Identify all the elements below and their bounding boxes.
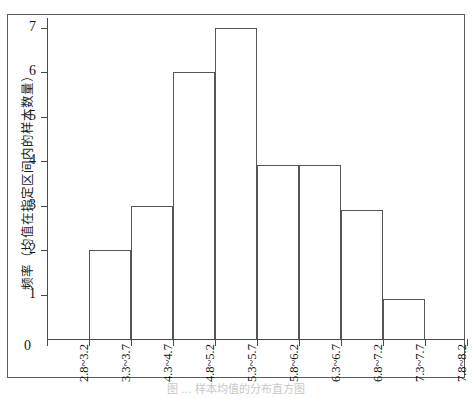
y-axis-tick-label: 3 <box>29 197 36 213</box>
x-axis-line <box>47 339 465 340</box>
histogram-bar <box>131 206 173 340</box>
histogram-bar <box>89 250 131 339</box>
histogram-bar <box>257 165 299 339</box>
origin-zero-label: 0 <box>24 338 31 354</box>
plot-area <box>47 18 467 339</box>
figure-caption: 图 … 样本均值的分布直方图 <box>0 382 472 397</box>
x-axis-tick-mark <box>47 339 48 346</box>
histogram-figure: 频率（均值在指定区间内的样本数量） 1234567 0 2.8~3.23.3~3… <box>0 0 472 399</box>
histogram-bar <box>341 210 383 339</box>
histogram-bar <box>299 165 341 339</box>
y-axis-tick-label: 1 <box>29 286 36 302</box>
histogram-bar <box>215 28 257 340</box>
y-axis-tick-label: 6 <box>29 63 36 79</box>
histogram-bar <box>173 72 215 339</box>
y-axis-tick-label: 5 <box>29 108 36 124</box>
histogram-bar <box>383 299 425 339</box>
y-axis-tick-label: 4 <box>29 152 36 168</box>
y-axis-tick-label: 7 <box>29 19 36 35</box>
y-axis-tick-label: 2 <box>29 241 36 257</box>
